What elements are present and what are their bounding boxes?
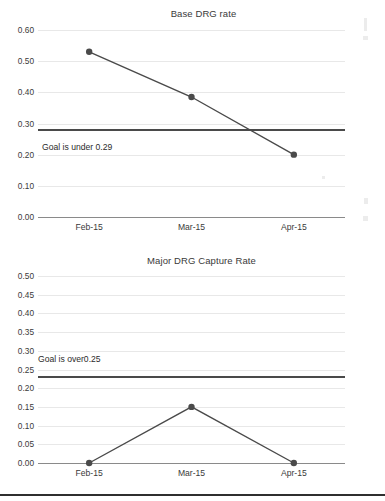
x-axis-tick-label: Feb-15	[76, 468, 103, 478]
x-axis-line	[38, 217, 345, 218]
scan-speck	[364, 198, 368, 204]
y-axis-tick-label: 0.20	[18, 383, 34, 393]
y-axis-tick-label: 0.10	[18, 421, 34, 431]
y-axis-tick-label: 0.05	[18, 439, 34, 449]
data-point-marker	[291, 151, 297, 157]
y-axis-tick-label: 0.30	[18, 119, 34, 129]
y-axis-tick-label: 0.20	[18, 150, 34, 160]
data-point-marker	[86, 460, 92, 466]
y-axis-tick-label: 0.60	[18, 25, 34, 35]
y-axis-tick-label: 0.25	[18, 365, 34, 375]
y-axis-tick-label: 0.10	[18, 181, 34, 191]
data-point-marker	[188, 94, 194, 100]
x-axis-tick-label: Apr-15	[281, 468, 307, 478]
y-axis-tick-label: 0.30	[18, 346, 34, 356]
y-axis-tick-label: 0.00	[18, 212, 34, 222]
scan-speck	[322, 176, 325, 179]
chart-base-drg-rate: Base DRG rate 0.000.100.200.300.400.500.…	[0, 0, 385, 240]
y-axis-tick-label: 0.45	[18, 290, 34, 300]
data-point-marker	[188, 404, 194, 410]
data-series	[38, 276, 345, 463]
y-axis-tick-label: 0.15	[18, 402, 34, 412]
plot-area: 0.000.050.100.150.200.250.300.350.400.45…	[38, 276, 345, 463]
chart-title: Base DRG rate	[0, 8, 385, 19]
x-axis-tick-label: Apr-15	[281, 222, 307, 232]
data-series	[38, 30, 345, 217]
scan-speck	[363, 216, 368, 221]
x-axis-line	[38, 463, 345, 464]
chart-title: Major DRG Capture Rate	[0, 255, 385, 266]
y-axis-tick-label: 0.00	[18, 458, 34, 468]
data-point-marker	[291, 460, 297, 466]
x-axis-tick-label: Mar-15	[178, 222, 205, 232]
x-axis-tick-label: Feb-15	[76, 222, 103, 232]
y-axis-tick-label: 0.50	[18, 56, 34, 66]
y-axis-tick-label: 0.40	[18, 308, 34, 318]
chart-major-drg-capture-rate: Major DRG Capture Rate 0.000.050.100.150…	[0, 248, 385, 493]
x-axis-tick-label: Mar-15	[178, 468, 205, 478]
report-page: Base DRG rate 0.000.100.200.300.400.500.…	[0, 0, 385, 501]
data-point-marker	[86, 49, 92, 55]
y-axis-tick-label: 0.50	[18, 271, 34, 281]
plot-area: 0.000.100.200.300.400.500.60Goal is unde…	[38, 30, 345, 217]
y-axis-tick-label: 0.35	[18, 327, 34, 337]
page-bottom-rule	[0, 494, 385, 496]
scan-speck	[363, 36, 368, 40]
scan-speck	[364, 18, 367, 31]
y-axis-tick-label: 0.40	[18, 87, 34, 97]
